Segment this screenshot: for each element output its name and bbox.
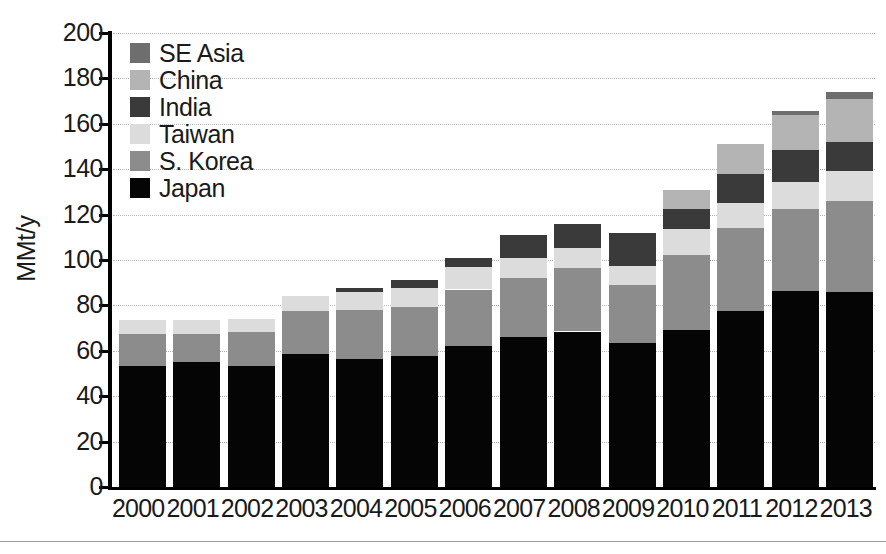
x-axis-tick-label-2012: 2012: [764, 494, 818, 522]
x-axis-tick-label-2002: 2002: [220, 494, 274, 522]
bar-segment-india-2009[interactable]: [609, 233, 656, 266]
bar-segment-japan-2004[interactable]: [336, 359, 383, 487]
bar-segment-india-2012[interactable]: [772, 150, 819, 182]
chart-figure: MMt/y 020406080100120140160180200 200020…: [0, 0, 886, 554]
x-axis-tick-label-2004: 2004: [329, 494, 383, 522]
bar-segment-japan-2011[interactable]: [717, 311, 764, 487]
bar-segment-s-korea-2007[interactable]: [500, 278, 547, 337]
y-axis-tick-label: 80: [45, 292, 103, 317]
bar-segment-s-korea-2003[interactable]: [282, 311, 329, 354]
bar-segment-s-korea-2004[interactable]: [336, 310, 383, 359]
bar-segment-taiwan-2004[interactable]: [336, 292, 383, 310]
bar-segment-japan-2003[interactable]: [282, 354, 329, 487]
bar-segment-taiwan-2003[interactable]: [282, 296, 329, 311]
bar-2004[interactable]: [336, 33, 383, 487]
x-axis-tick-label-2000: 2000: [111, 494, 165, 522]
bar-segment-japan-2009[interactable]: [609, 343, 656, 487]
bar-segment-s-korea-2013[interactable]: [826, 201, 873, 292]
x-axis-tick-label-2011: 2011: [710, 494, 764, 522]
x-axis-line: [108, 487, 876, 490]
bar-segment-taiwan-2002[interactable]: [228, 319, 275, 331]
bar-segment-s-korea-2002[interactable]: [228, 332, 275, 366]
bar-segment-japan-2000[interactable]: [119, 366, 166, 487]
legend: SE AsiaChinaIndiaTaiwanS. KoreaJapan: [130, 40, 320, 202]
bar-2013[interactable]: [826, 33, 873, 487]
legend-item-china[interactable]: China: [130, 67, 320, 93]
bar-segment-japan-2013[interactable]: [826, 292, 873, 487]
bar-segment-taiwan-2008[interactable]: [554, 248, 601, 268]
bar-segment-china-2013[interactable]: [826, 99, 873, 142]
bar-segment-taiwan-2005[interactable]: [391, 288, 438, 306]
bar-segment-taiwan-2007[interactable]: [500, 258, 547, 278]
y-axis-tick-label: 0: [45, 474, 103, 499]
bar-segment-india-2008[interactable]: [554, 224, 601, 248]
bar-segment-s-korea-2012[interactable]: [772, 209, 819, 291]
bar-segment-s-korea-2006[interactable]: [445, 290, 492, 347]
bar-2005[interactable]: [391, 33, 438, 487]
x-axis-tick-label-2008: 2008: [546, 494, 600, 522]
bar-segment-japan-2001[interactable]: [173, 362, 220, 487]
legend-label: India: [159, 95, 211, 120]
bar-segment-taiwan-2012[interactable]: [772, 182, 819, 209]
y-axis-tick-label: 180: [45, 65, 103, 90]
bar-segment-japan-2005[interactable]: [391, 356, 438, 487]
bar-segment-japan-2010[interactable]: [663, 330, 710, 487]
legend-item-se-asia[interactable]: SE Asia: [130, 40, 320, 66]
bar-segment-taiwan-2009[interactable]: [609, 266, 656, 285]
bar-segment-se-asia-2013[interactable]: [826, 92, 873, 99]
bar-segment-india-2011[interactable]: [717, 174, 764, 204]
x-axis-tick-label-2005: 2005: [383, 494, 437, 522]
bar-segment-s-korea-2008[interactable]: [554, 268, 601, 332]
bar-segment-japan-2008[interactable]: [554, 332, 601, 487]
bar-segment-china-2011[interactable]: [717, 144, 764, 174]
bar-segment-se-asia-2012[interactable]: [772, 111, 819, 114]
bar-segment-s-korea-2001[interactable]: [173, 334, 220, 362]
legend-item-india[interactable]: India: [130, 94, 320, 120]
legend-label: Japan: [159, 176, 225, 201]
bar-2011[interactable]: [717, 33, 764, 487]
bar-2007[interactable]: [500, 33, 547, 487]
bar-segment-china-2012[interactable]: [772, 115, 819, 150]
bar-segment-japan-2012[interactable]: [772, 291, 819, 487]
bar-segment-india-2005[interactable]: [391, 280, 438, 288]
bar-segment-taiwan-2010[interactable]: [663, 229, 710, 255]
x-axis-tick-label-2003: 2003: [274, 494, 328, 522]
bar-segment-india-2010[interactable]: [663, 209, 710, 229]
bar-segment-japan-2007[interactable]: [500, 337, 547, 487]
bar-segment-japan-2002[interactable]: [228, 366, 275, 487]
bar-segment-taiwan-2000[interactable]: [119, 320, 166, 334]
bar-segment-china-2010[interactable]: [663, 190, 710, 209]
x-axis-tick-label-2007: 2007: [492, 494, 546, 522]
bar-segment-japan-2006[interactable]: [445, 346, 492, 487]
bar-2010[interactable]: [663, 33, 710, 487]
y-axis-tick-label: 140: [45, 156, 103, 181]
y-axis-tick-label: 20: [45, 429, 103, 454]
bar-2009[interactable]: [609, 33, 656, 487]
y-axis-tick-label: 160: [45, 111, 103, 136]
bar-segment-s-korea-2005[interactable]: [391, 307, 438, 357]
y-axis-tick-label: 120: [45, 202, 103, 227]
bar-2008[interactable]: [554, 33, 601, 487]
bar-segment-taiwan-2013[interactable]: [826, 171, 873, 201]
bar-segment-taiwan-2011[interactable]: [717, 203, 764, 228]
y-axis-title: MMt/y: [14, 189, 39, 309]
bar-segment-india-2006[interactable]: [445, 258, 492, 267]
legend-item-s-korea[interactable]: S. Korea: [130, 148, 320, 174]
bar-segment-s-korea-2000[interactable]: [119, 334, 166, 366]
y-axis-tick-label: 200: [45, 20, 103, 45]
legend-item-japan[interactable]: Japan: [130, 175, 320, 201]
bar-segment-taiwan-2001[interactable]: [173, 320, 220, 334]
bar-2012[interactable]: [772, 33, 819, 487]
legend-item-taiwan[interactable]: Taiwan: [130, 121, 320, 147]
x-axis-tick-label-2006: 2006: [438, 494, 492, 522]
bar-segment-s-korea-2009[interactable]: [609, 285, 656, 343]
bar-segment-s-korea-2011[interactable]: [717, 228, 764, 311]
bar-segment-india-2013[interactable]: [826, 142, 873, 172]
bar-2006[interactable]: [445, 33, 492, 487]
bar-segment-india-2007[interactable]: [500, 235, 547, 258]
bar-segment-india-2004[interactable]: [336, 288, 383, 291]
bar-segment-s-korea-2010[interactable]: [663, 255, 710, 330]
bar-segment-taiwan-2006[interactable]: [445, 267, 492, 290]
bottom-divider: [0, 541, 886, 542]
x-axis-tick-label-2010: 2010: [655, 494, 709, 522]
